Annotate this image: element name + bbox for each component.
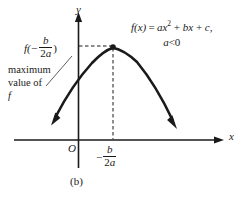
curve-left-arrowhead	[51, 113, 60, 126]
equation-condition: a<0	[131, 37, 213, 48]
maximum-value-note: maximum value of f	[8, 63, 51, 102]
equation-plus-2: +	[196, 21, 202, 33]
parabola-figure: y x O f(−b2a) maximum value of f −b2a f(…	[0, 0, 241, 198]
max-note-line2-prefix: value of	[8, 76, 51, 89]
equation-term-x2: x	[188, 21, 193, 33]
y-axis-label: y	[76, 4, 81, 15]
condition-value: 0	[175, 36, 181, 48]
equation-annotation: f(x) = ax2 + bx + c, a<0	[131, 22, 213, 48]
x-axis-label: x	[229, 131, 234, 142]
vertex-x-fraction: b2a	[103, 144, 116, 168]
x-axis-arrowhead	[214, 136, 224, 143]
vertex-x-denominator: 2a	[103, 157, 116, 169]
vertex-y-denominator-var: a	[46, 47, 52, 59]
vertex-y-label-suffix: )	[53, 42, 57, 54]
vertex-y-denominator: 2a	[39, 48, 52, 60]
parabola-curve	[56, 48, 173, 120]
equation-plus-1: +	[174, 21, 180, 33]
origin-label: O	[68, 143, 76, 154]
vertex-y-fraction: b2a	[39, 35, 52, 59]
equation-exponent: 2	[167, 19, 171, 28]
vertex-y-label-prefix: f(−	[24, 42, 38, 54]
equation-line: f(x) = ax2 + bx + c,	[131, 22, 213, 33]
figure-caption: (b)	[70, 176, 83, 187]
vertex-x-value-label: −b2a	[96, 144, 117, 168]
vertex-x-denominator-var: a	[110, 156, 116, 168]
x-axis	[14, 136, 224, 143]
vertex-y-value-label: f(−b2a)	[24, 35, 57, 59]
vertex-point	[110, 44, 116, 50]
max-note-line2-var: f	[8, 90, 11, 101]
equation-equals: =	[148, 21, 154, 33]
equation-argument: (x)	[134, 21, 146, 33]
curve-right-arrowhead	[167, 115, 177, 129]
max-note-line1: maximum	[8, 63, 51, 76]
vertex-x-label-prefix: −	[96, 151, 102, 163]
equation-comma: ,	[210, 21, 213, 33]
max-note-line2: value of f	[8, 76, 51, 102]
